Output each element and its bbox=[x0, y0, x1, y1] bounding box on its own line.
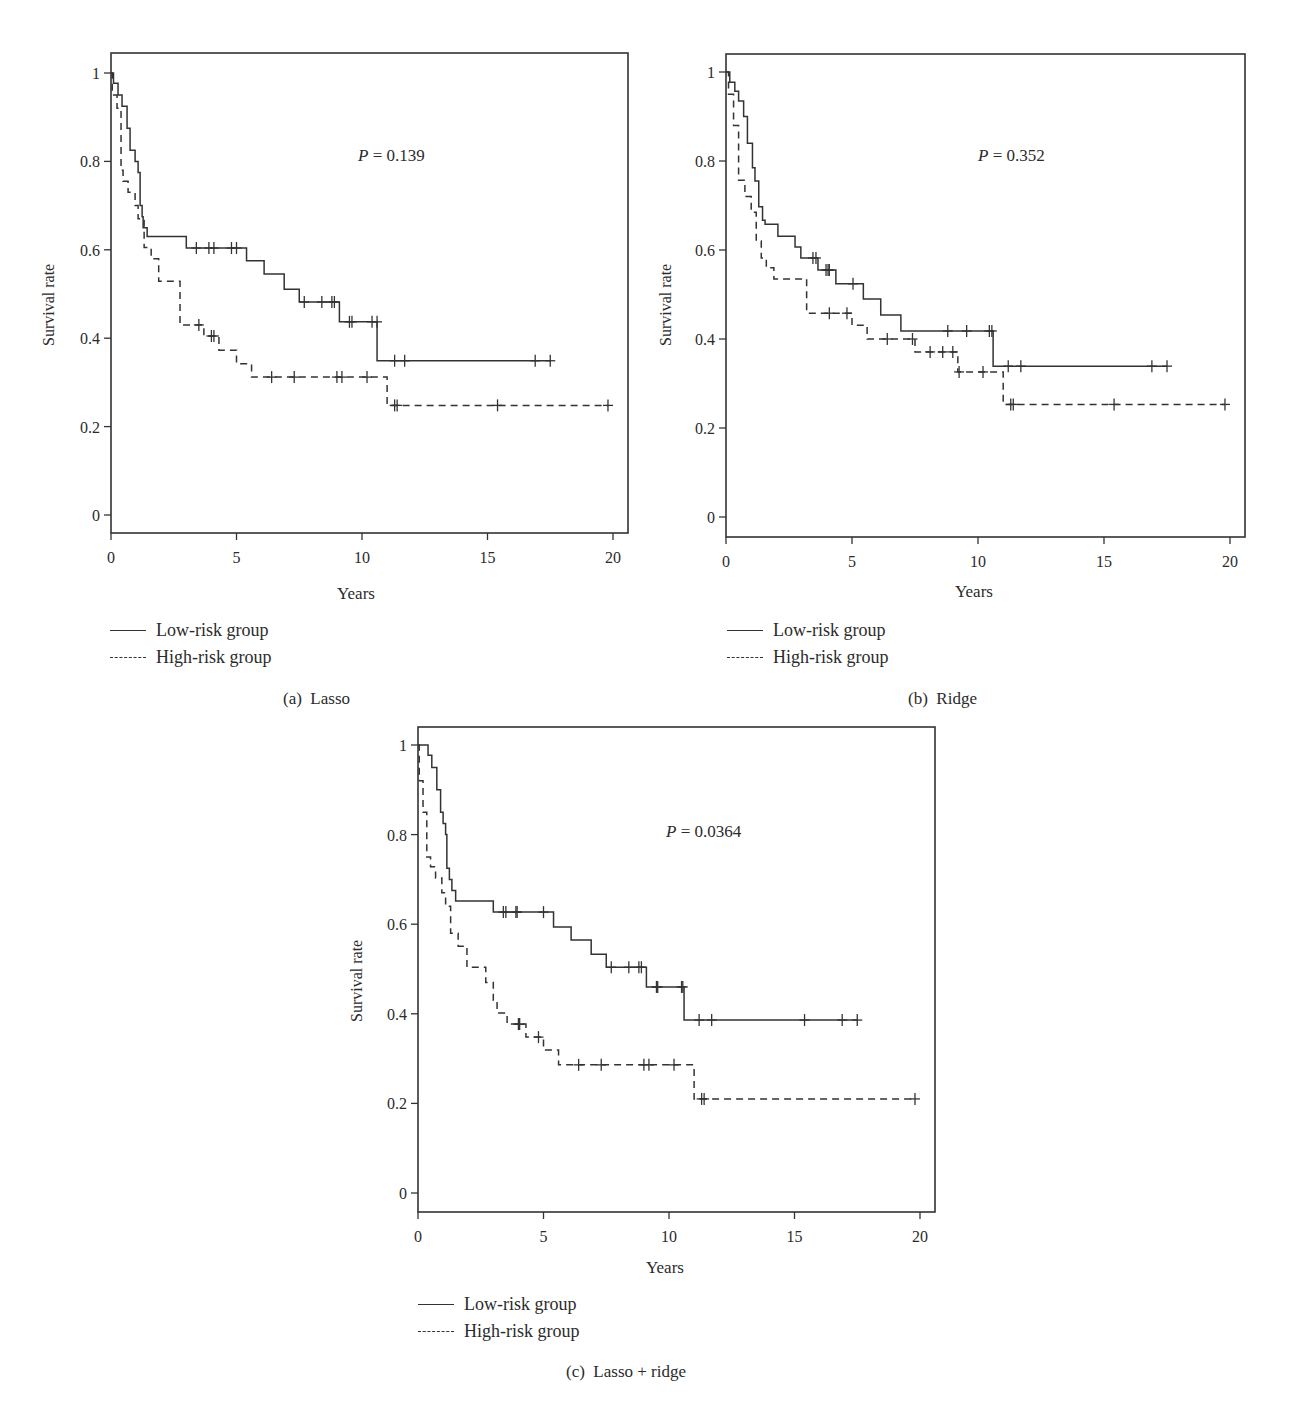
high-risk-curve bbox=[418, 745, 915, 1099]
y-tick-label: 0 bbox=[399, 1185, 407, 1202]
x-axis-label-c: Years bbox=[646, 1258, 684, 1278]
panel-c: 00.20.40.60.8105101520 P = 0.0364 Surviv… bbox=[0, 0, 1289, 1408]
x-tick-label: 0 bbox=[414, 1228, 422, 1245]
plot-frame bbox=[418, 727, 935, 1212]
y-tick-label: 0.8 bbox=[387, 827, 407, 844]
y-tick-label: 0.6 bbox=[387, 916, 407, 933]
legend-item-high-risk: High-risk group bbox=[418, 1318, 580, 1345]
low-risk-curve bbox=[418, 745, 857, 1020]
y-axis-label-c: Survival rate bbox=[348, 940, 366, 1022]
x-tick-label: 15 bbox=[787, 1228, 803, 1245]
legend-item-low-risk: Low-risk group bbox=[418, 1291, 580, 1318]
p-value-c: P = 0.0364 bbox=[666, 822, 741, 842]
y-tick-label: 0.4 bbox=[387, 1006, 407, 1023]
caption-c: (c) Lasso + ridge bbox=[566, 1362, 686, 1382]
dashed-line-icon bbox=[418, 1331, 454, 1332]
y-tick-label: 1 bbox=[399, 737, 407, 754]
x-tick-label: 10 bbox=[661, 1228, 677, 1245]
x-tick-label: 5 bbox=[540, 1228, 548, 1245]
km-plot-c: 00.20.40.60.8105101520 bbox=[0, 0, 1289, 1408]
legend-c: Low-risk group High-risk group bbox=[418, 1291, 580, 1345]
solid-line-icon bbox=[418, 1304, 454, 1305]
x-tick-label: 20 bbox=[912, 1228, 928, 1245]
y-tick-label: 0.2 bbox=[387, 1095, 407, 1112]
